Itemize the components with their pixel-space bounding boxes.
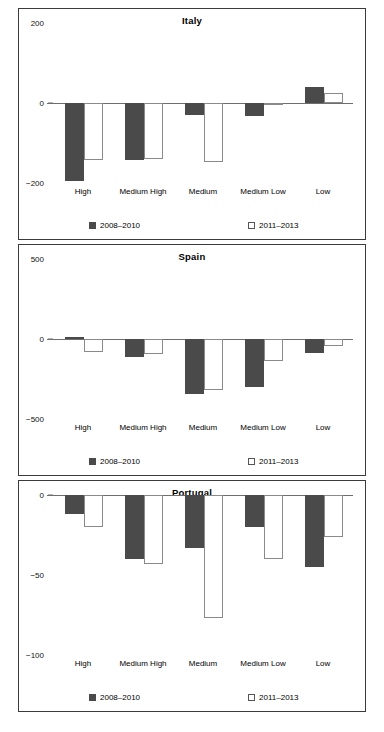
bar [84,103,103,160]
legend-item-2008-2010: 2008–2010 [89,221,140,230]
bar-groups: HighMedium HighMediumMedium LowLow [53,495,353,655]
bar-pair [53,23,113,183]
x-axis-category-label: Medium Low [233,187,293,196]
bar [65,103,84,181]
bar-pair [233,495,293,655]
bar-pair [113,23,173,183]
bar [245,495,264,527]
legend-item-2011-2013: 2011–2013 [248,221,298,230]
bar [264,495,283,559]
bar [65,495,84,514]
y-axis-tick-label: 0 [40,99,44,108]
bar [125,495,144,559]
bar-pair [53,259,113,419]
bar-pair [173,23,233,183]
x-axis-category-label: Medium [173,423,233,432]
bar-group: Medium Low [233,259,293,419]
y-axis-tick-label: −50 [30,571,44,580]
bar-pair [233,259,293,419]
bar [305,87,324,103]
bar [84,339,103,352]
x-axis-category-label: Low [293,659,353,668]
legend-label-2011-2013: 2011–2013 [259,457,298,466]
x-axis-category-label: Medium High [113,187,173,196]
chart-figure: Italy 2000−200HighMedium HighMediumMediu… [0,0,384,732]
y-axis-tick-label: 500 [31,255,44,264]
y-axis-tick-label: −200 [26,179,44,188]
bar-pair [173,495,233,655]
bar-group: High [53,495,113,655]
legend-swatch-solid-icon [89,694,96,701]
x-axis-category-label: Medium Low [233,423,293,432]
legend-swatch-solid-icon [89,222,96,229]
legend-swatch-hollow-icon [248,458,255,465]
x-axis-category-label: High [53,423,113,432]
legend-label-2008-2010: 2008–2010 [100,693,140,702]
y-axis-tick-label: 200 [31,19,44,28]
x-axis-category-label: Medium High [113,659,173,668]
bar-group: Medium High [113,23,173,183]
bar-pair [53,495,113,655]
chart-panel-italy: Italy 2000−200HighMedium HighMediumMediu… [18,8,366,240]
bar-group: Medium High [113,495,173,655]
legend-swatch-solid-icon [89,458,96,465]
legend-label-2008-2010: 2008–2010 [100,221,140,230]
legend-label-2011-2013: 2011–2013 [259,693,298,702]
legend-spain: 2008–2010 2011–2013 [53,457,353,466]
bar [324,339,343,346]
y-axis-tick-label: −500 [26,415,44,424]
bar-group: Medium High [113,259,173,419]
chart-panel-portugal: Portugal 0−50−100HighMedium HighMediumMe… [18,480,366,712]
bar-group: Medium [173,23,233,183]
bar-group: Low [293,495,353,655]
bar-pair [293,495,353,655]
bar [324,495,343,537]
y-axis-tick-label: −100 [26,651,44,660]
bar [245,103,264,116]
legend-item-2008-2010: 2008–2010 [89,457,140,466]
bar-group: High [53,23,113,183]
legend-portugal: 2008–2010 2011–2013 [53,693,353,702]
x-axis-category-label: Low [293,187,353,196]
bar-group: High [53,259,113,419]
bar [84,495,103,527]
x-axis-category-label: Medium Low [233,659,293,668]
legend-swatch-hollow-icon [248,694,255,701]
bar [144,103,163,159]
bar [264,339,283,361]
bar [144,495,163,564]
y-axis-tick-label: 0 [40,335,44,344]
x-axis-category-label: Medium High [113,423,173,432]
plot-area-portugal: 0−50−100HighMedium HighMediumMedium LowL… [53,495,353,655]
legend-label-2008-2010: 2008–2010 [100,457,140,466]
legend-item-2011-2013: 2011–2013 [248,457,298,466]
legend-label-2011-2013: 2011–2013 [259,221,298,230]
legend-swatch-hollow-icon [248,222,255,229]
bar-pair [113,259,173,419]
plot-area-spain: 5000−500HighMedium HighMediumMedium LowL… [53,259,353,419]
bar-group: Medium [173,495,233,655]
bar [324,93,343,103]
bar-group: Low [293,23,353,183]
chart-panel-spain: Spain 5000−500HighMedium HighMediumMediu… [18,244,366,476]
bar [185,495,204,548]
bar [204,495,223,618]
x-axis-category-label: Low [293,423,353,432]
bar [185,103,204,115]
bar [264,103,283,105]
bar-pair [293,259,353,419]
bar-pair [113,495,173,655]
bar [185,339,204,394]
x-axis-category-label: High [53,659,113,668]
bar [125,103,144,160]
bar-group: Medium Low [233,23,293,183]
bar-pair [233,23,293,183]
bar [245,339,264,387]
bar-group: Low [293,259,353,419]
legend-item-2008-2010: 2008–2010 [89,693,140,702]
legend-item-2011-2013: 2011–2013 [248,693,298,702]
plot-area-italy: 2000−200HighMedium HighMediumMedium LowL… [53,23,353,183]
x-axis-category-label: Medium [173,187,233,196]
bar [204,339,223,390]
bar-pair [293,23,353,183]
